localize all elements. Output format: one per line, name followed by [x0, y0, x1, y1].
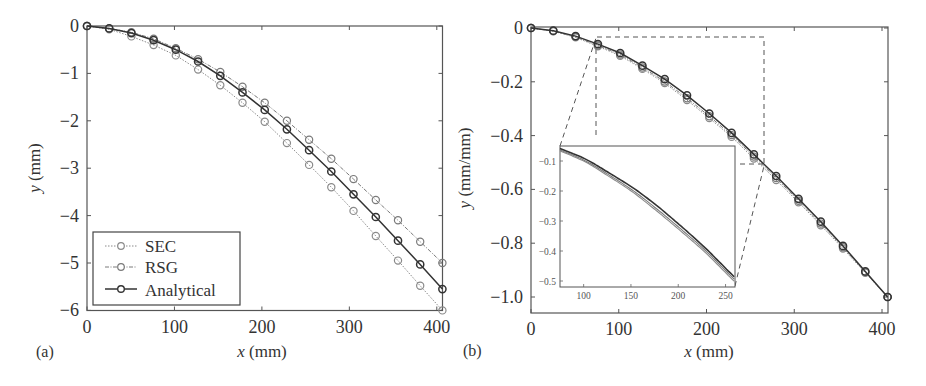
inset-y-tick-label: −0.5	[539, 277, 556, 287]
panel-b-chart: 01002003004000−0.2−0.4−0.6−0.8−1.0 10015…	[455, 18, 896, 361]
panel-a-chart: 01002003004000−1−2−3−4−5−6 y (mm) x (mm)…	[25, 16, 450, 361]
x-tick-label: 300	[781, 319, 808, 339]
y-tick-label: −3	[60, 158, 79, 178]
inset-chart: 100150200250−0.1−0.2−0.3−0.4−0.5	[539, 146, 735, 301]
y-tick-label: −0.4	[490, 126, 523, 146]
x-tick-label: 100	[605, 319, 632, 339]
data-point-marker	[417, 238, 424, 245]
y-tick-label: −0.8	[490, 233, 523, 253]
figure: 01002003004000−1−2−3−4−5−6 y (mm) x (mm)…	[0, 0, 926, 386]
panel-a-ylabel: y (mm)	[25, 143, 44, 195]
y-tick-label: 0	[514, 18, 523, 38]
panel-b-ylabel: y (mm/mm)	[455, 128, 474, 211]
y-tick-label: −4	[60, 206, 79, 226]
panel-b-label: (b)	[463, 342, 482, 360]
legend-label-sec: SEC	[145, 237, 176, 256]
inset-y-tick-label: −0.1	[539, 157, 556, 167]
inset-y-tick-label: −0.4	[539, 247, 556, 257]
inset-x-tick-label: 100	[577, 291, 592, 301]
data-point-marker	[417, 282, 424, 289]
y-tick-label: 0	[70, 16, 79, 36]
panel-a-label: (a)	[36, 343, 54, 361]
x-tick-label: 400	[869, 319, 896, 339]
y-tick-label: −0.2	[490, 72, 523, 92]
panel-b-xlabel: x (mm)	[683, 342, 734, 361]
inset-y-tick-label: −0.2	[539, 187, 556, 197]
inset-x-tick-label: 250	[718, 291, 733, 301]
y-tick-label: −5	[60, 253, 79, 273]
legend-label-analytical: Analytical	[145, 281, 216, 300]
inset-frame	[560, 146, 735, 287]
series-rsg	[83, 22, 446, 266]
inset-x-tick-label: 150	[624, 291, 639, 301]
inset-x-tick-label: 200	[671, 291, 686, 301]
y-tick-label: −1	[60, 63, 79, 83]
x-tick-label: 200	[693, 319, 720, 339]
legend-label-rsg: RSG	[145, 258, 178, 277]
inset-y-tick-label: −0.3	[539, 217, 556, 227]
legend: SEC RSG Analytical	[93, 232, 240, 305]
y-tick-label: −2	[60, 111, 79, 131]
data-point-marker	[394, 257, 401, 264]
data-point-marker	[328, 184, 335, 191]
x-tick-label: 0	[527, 319, 536, 339]
y-tick-label: −0.6	[490, 179, 523, 199]
data-point-marker	[239, 99, 246, 106]
y-tick-label: −6	[60, 300, 79, 320]
panel-a-xlabel: x (mm)	[236, 342, 287, 361]
data-point-marker	[261, 99, 268, 106]
data-point-marker	[372, 232, 379, 239]
x-tick-label: 0	[83, 317, 92, 337]
y-tick-label: −1.0	[490, 287, 523, 307]
data-point-marker	[283, 140, 290, 147]
x-tick-label: 300	[336, 317, 363, 337]
x-tick-label: 100	[161, 317, 188, 337]
x-tick-label: 200	[248, 317, 275, 337]
x-tick-label: 400	[423, 317, 450, 337]
